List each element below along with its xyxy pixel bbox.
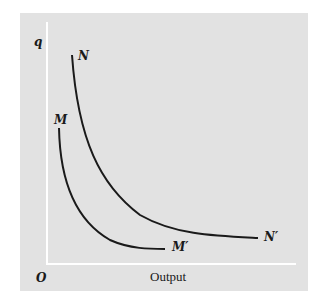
- curve-m-end-label: M′: [171, 240, 189, 254]
- x-axis-label: Output: [150, 269, 187, 284]
- figure-svg: q N M N′ M′ O Output: [0, 0, 315, 305]
- curve-m-start-label: M: [53, 113, 68, 127]
- curve-n: [72, 55, 258, 238]
- origin-label: O: [36, 271, 47, 285]
- curve-n-start-label: N: [77, 49, 90, 63]
- curve-n-end-label: N′: [263, 230, 279, 244]
- y-axis-label: q: [34, 35, 42, 49]
